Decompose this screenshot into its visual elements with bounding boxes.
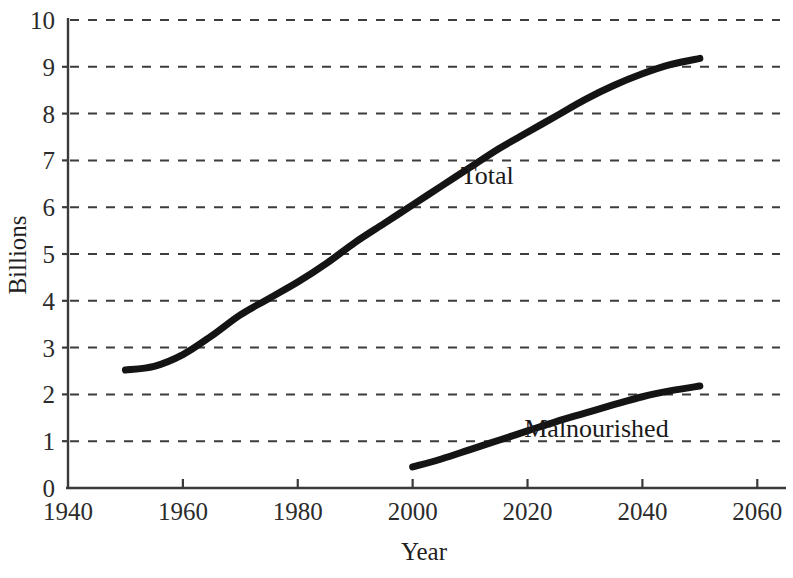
x-tick-label-1940: 1940 [43, 498, 93, 525]
y-tick-label-2: 2 [43, 381, 56, 408]
x-axis-title: Year [401, 538, 448, 565]
y-tick-label-10: 10 [30, 7, 55, 34]
population-line-chart: 012345678910 194019601980200020202040206… [0, 0, 793, 578]
y-tick-label-6: 6 [43, 194, 56, 221]
x-tick-label-2020: 2020 [503, 498, 553, 525]
x-tick-label-2060: 2060 [732, 498, 782, 525]
y-tick-label-7: 7 [43, 147, 56, 174]
x-axis-tick-labels-group: 1940196019802000202020402060 [43, 498, 782, 525]
y-tick-label-4: 4 [43, 288, 56, 315]
y-tick-label-5: 5 [43, 241, 56, 268]
y-tick-label-8: 8 [43, 101, 56, 128]
series-line-total [125, 58, 699, 370]
series-label-total: Total [461, 161, 514, 190]
data-series-group [125, 58, 699, 467]
x-tick-label-2040: 2040 [617, 498, 667, 525]
y-tick-label-1: 1 [43, 428, 56, 455]
gridlines-group [70, 20, 780, 441]
y-axis-title: Billions [4, 215, 31, 294]
y-axis-tick-labels-group: 012345678910 [30, 7, 56, 502]
y-tick-label-3: 3 [43, 335, 56, 362]
y-tick-label-9: 9 [43, 54, 56, 81]
chart-canvas: 012345678910 194019601980200020202040206… [0, 0, 793, 578]
x-axis-ticks-group [183, 479, 757, 488]
x-tick-label-1980: 1980 [273, 498, 323, 525]
x-tick-label-1960: 1960 [158, 498, 208, 525]
series-label-malnourished: Malnourished [524, 414, 668, 443]
x-tick-label-2000: 2000 [388, 498, 438, 525]
